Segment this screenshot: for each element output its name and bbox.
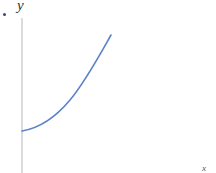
- curve-line: [22, 35, 111, 131]
- y-axis-label: y: [17, 0, 24, 13]
- plot-area: [0, 0, 216, 173]
- x-axis-label: x: [202, 164, 206, 173]
- point-marker: [3, 13, 6, 16]
